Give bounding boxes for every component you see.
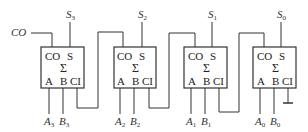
pin-b: B bbox=[60, 75, 67, 87]
input-a-label: A1 bbox=[185, 115, 197, 129]
sigma-symbol: Σ bbox=[203, 61, 210, 75]
ripple-carry-adder-diagram: CO CO S Σ A B CI S3 A3 B3 CO S Σ A B CI … bbox=[0, 0, 308, 132]
pin-s: S bbox=[67, 50, 73, 62]
pin-a: A bbox=[45, 75, 53, 87]
pin-a: A bbox=[117, 75, 125, 87]
sigma-symbol: Σ bbox=[272, 61, 279, 75]
input-b-label: B3 bbox=[59, 115, 70, 129]
pin-co: CO bbox=[117, 50, 132, 62]
sum-output-label: S0 bbox=[277, 8, 287, 22]
input-a-label: A2 bbox=[114, 115, 126, 129]
full-adder-0: CO S Σ A B CI S0 A0 B0 bbox=[253, 8, 296, 129]
input-b-label: B1 bbox=[201, 115, 212, 129]
input-b-label: B0 bbox=[270, 115, 281, 129]
input-b-label: B2 bbox=[130, 115, 141, 129]
pin-s: S bbox=[139, 50, 145, 62]
pin-a: A bbox=[257, 75, 265, 87]
full-adder-3: CO S Σ A B CI S3 A3 B3 bbox=[41, 8, 84, 129]
carry-out-wire bbox=[31, 33, 52, 47]
pin-ci: CI bbox=[213, 75, 224, 87]
sigma-symbol: Σ bbox=[60, 61, 67, 75]
carry-out-label: CO bbox=[11, 26, 26, 38]
input-a-label: A3 bbox=[43, 115, 55, 129]
pin-ci: CI bbox=[282, 75, 293, 87]
sum-output-label: S2 bbox=[138, 8, 148, 22]
pin-s: S bbox=[210, 50, 216, 62]
pin-a: A bbox=[188, 75, 196, 87]
sum-output-label: S1 bbox=[208, 8, 218, 22]
pin-b: B bbox=[272, 75, 279, 87]
pin-ci: CI bbox=[70, 75, 81, 87]
pin-ci: CI bbox=[142, 75, 153, 87]
sum-output-label: S3 bbox=[66, 8, 76, 22]
pin-co: CO bbox=[188, 50, 203, 62]
input-a-label: A0 bbox=[254, 115, 266, 129]
pin-b: B bbox=[203, 75, 210, 87]
full-adder-1: CO S Σ A B CI S1 A1 B1 bbox=[184, 8, 227, 129]
pin-s: S bbox=[279, 50, 285, 62]
pin-co: CO bbox=[257, 50, 272, 62]
pin-co: CO bbox=[45, 50, 60, 62]
sigma-symbol: Σ bbox=[132, 61, 139, 75]
pin-b: B bbox=[132, 75, 139, 87]
full-adder-2: CO S Σ A B CI S2 A2 B2 bbox=[114, 8, 156, 129]
